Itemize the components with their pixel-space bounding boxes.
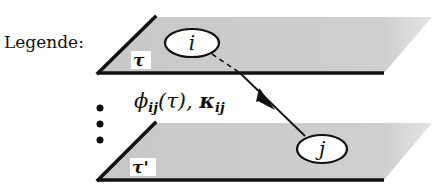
edge-label-kappa: κ: [198, 88, 215, 113]
ellipsis-dot: [97, 121, 104, 128]
legend-label: Legende:: [4, 32, 84, 52]
node-j: j: [297, 135, 347, 163]
diagram-canvas: Legende: τ τ' ϕij(τ), κij i j: [0, 0, 440, 187]
vertical-ellipsis-icon: [97, 105, 104, 144]
node-i: i: [165, 29, 219, 57]
edge-label-phi-sub: ij: [148, 100, 158, 115]
ellipsis-dot: [97, 137, 104, 144]
edge-arrowhead: [258, 89, 275, 110]
plane-tau-prime: τ': [98, 123, 432, 180]
plane-tau-prime-label: τ': [132, 157, 149, 177]
edge-label-phi-arg: (τ),: [158, 89, 199, 113]
edge-label: ϕij(τ), κij: [134, 88, 225, 115]
node-i-label: i: [189, 31, 195, 55]
plane-tau-label: τ: [133, 50, 145, 70]
edge-label-phi: ϕ: [134, 89, 148, 113]
edge-label-kappa-sub: ij: [215, 100, 225, 115]
plane-tau: τ: [98, 17, 432, 73]
ellipsis-dot: [97, 105, 104, 112]
